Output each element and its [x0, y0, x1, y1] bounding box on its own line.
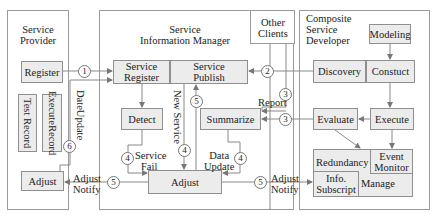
- step-2-badge: 2: [261, 65, 274, 78]
- step-1-badge: 1: [78, 65, 91, 78]
- report-label: Report: [258, 97, 287, 108]
- connector-arrows: [0, 0, 437, 216]
- new-service-label: New Service: [172, 90, 183, 144]
- step-4-new-service-badge: 4: [178, 144, 191, 157]
- architecture-diagram: Service Provider Service Information Man…: [0, 0, 437, 216]
- step-5-right-badge: 5: [254, 176, 267, 189]
- data-update-label: Data Update: [204, 150, 234, 172]
- step-6-badge: 6: [63, 140, 76, 153]
- step-3-evaluate-badge: 3: [279, 113, 292, 126]
- step-5-publish-badge: 5: [190, 95, 203, 108]
- adjust-notify-right-label: Adjust Notify: [271, 173, 299, 195]
- date-update-label: DateUpdate: [75, 90, 86, 140]
- step-4-service-fail-badge: 4: [121, 152, 134, 165]
- step-5-left-badge: 5: [107, 176, 120, 189]
- step-4-data-update-badge: 4: [234, 152, 247, 165]
- service-fail-label: Service Fail: [135, 150, 167, 172]
- adjust-notify-left-label: Adjust Notify: [73, 173, 101, 195]
